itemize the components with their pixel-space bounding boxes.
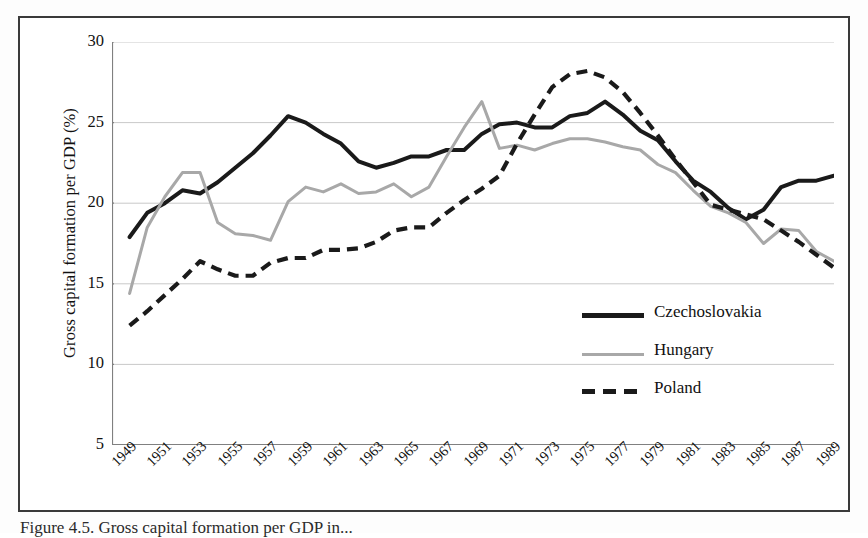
legend-item: Hungary [582,342,832,380]
series-line-poland [130,71,834,326]
y-axis-tick-label: 25 [64,114,104,131]
chart-legend: CzechoslovakiaHungaryPoland [582,304,832,418]
series-line-czechoslovakia [130,102,834,237]
legend-label: Hungary [654,340,713,360]
legend-swatch-czechoslovakia [582,313,644,318]
legend-label: Czechoslovakia [654,302,762,322]
legend-item: Czechoslovakia [582,304,832,342]
legend-label: Poland [654,378,701,398]
y-axis-tick-label: 15 [64,275,104,292]
plot-area: CzechoslovakiaHungaryPoland [112,42,834,445]
figure-frame: Gross capital formation per GDP (%) 5101… [18,16,850,512]
y-axis-tick-label: 5 [64,436,104,453]
legend-item: Poland [582,380,832,418]
y-axis-tick-label: 30 [64,33,104,50]
y-axis-tick-label: 10 [64,355,104,372]
series-line-hungary [130,102,834,294]
figure-caption: Figure 4.5. Gross capital formation per … [20,518,850,538]
y-axis-tick-labels: 51015202530 [56,42,104,445]
legend-swatch-poland [582,389,644,394]
y-axis-tick-label: 20 [64,194,104,211]
legend-swatch-hungary [582,353,644,356]
